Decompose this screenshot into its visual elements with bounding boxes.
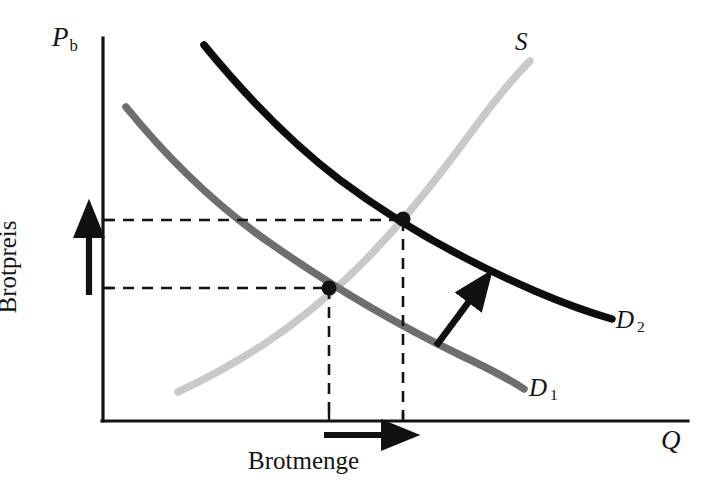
equilibrium-point-initial <box>322 281 337 296</box>
demand-d1-label-subscript: 1 <box>547 386 558 403</box>
supply-curve-label-letter: S <box>515 28 528 55</box>
y-axis-symbol-subscript: b <box>69 36 78 55</box>
supply-curve-s <box>178 61 530 392</box>
demand-shift-arrow <box>436 288 479 346</box>
equilibrium-point-new <box>396 212 411 227</box>
demand-curve-d1 <box>126 107 524 389</box>
guide-lines <box>104 220 403 419</box>
diagram-canvas <box>0 0 702 488</box>
demand-d1-label-letter: D <box>529 374 547 401</box>
x-axis-symbol-label: Q <box>661 427 681 454</box>
demand-curve-d1-label: D1 <box>529 375 558 403</box>
y-axis-symbol-letter: P <box>52 22 69 52</box>
y-axis-symbol-label: Pb <box>52 24 78 54</box>
supply-curve-label: S <box>515 29 528 54</box>
demand-curve-d2-label: D2 <box>616 307 645 335</box>
y-axis-title: Brotpreis <box>0 192 20 342</box>
x-axis-symbol-letter: Q <box>661 425 681 455</box>
x-axis-title: Brotmenge <box>248 448 359 473</box>
supply-demand-figure: Pb Q S D2 D1 Brotpreis Brotmenge <box>0 0 702 488</box>
demand-d2-label-letter: D <box>616 306 634 333</box>
demand-curve-d2 <box>204 45 612 319</box>
demand-d2-label-subscript: 2 <box>634 318 645 335</box>
